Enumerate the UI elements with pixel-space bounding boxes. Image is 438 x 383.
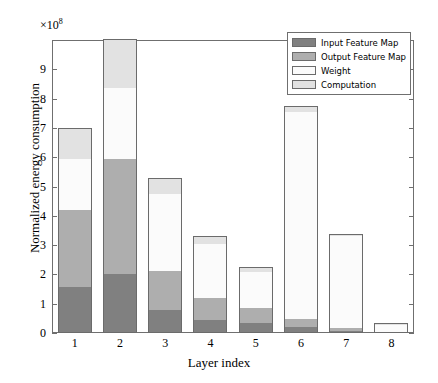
x-tick-label: 7 — [336, 336, 356, 351]
y-tick-label: 1 — [30, 296, 46, 311]
legend-label-computation: Computation — [321, 80, 376, 90]
legend-swatch-weight — [292, 66, 316, 75]
x-tick-mark — [120, 328, 121, 333]
x-tick-mark — [301, 328, 302, 333]
y-tick-mark-right — [409, 99, 414, 100]
y-tick-mark — [52, 187, 57, 188]
y-tick-mark — [52, 157, 57, 158]
y-axis-exponent-label: ×108 — [40, 17, 63, 33]
y-tick-mark-right — [409, 157, 414, 158]
x-tick-mark — [391, 328, 392, 333]
x-axis-title: Layer index — [0, 355, 438, 371]
legend-label-weight: Weight — [321, 66, 351, 76]
legend-item[interactable]: Weight — [292, 64, 406, 77]
legend: Input Feature Map Output Feature Map Wei… — [287, 32, 411, 95]
y-tick-mark-right — [409, 187, 414, 188]
x-tick-label: 3 — [155, 336, 175, 351]
legend-item[interactable]: Output Feature Map — [292, 50, 406, 63]
x-tick-label: 8 — [381, 336, 401, 351]
legend-swatch-computation — [292, 80, 316, 89]
y-tick-mark — [52, 216, 57, 217]
legend-swatch-input-feature-map — [292, 38, 316, 47]
y-tick-mark-right — [409, 245, 414, 246]
y-axis-title: Normalized energy consumption — [27, 53, 43, 283]
figure-canvas: ×108 012345678912345678 Layer index Norm… — [0, 0, 438, 383]
x-tick-mark — [256, 328, 257, 333]
legend-item[interactable]: Computation — [292, 78, 406, 91]
y-tick-label: 0 — [30, 326, 46, 341]
y-tick-mark — [52, 245, 57, 246]
legend-item[interactable]: Input Feature Map — [292, 36, 406, 49]
x-tick-label: 4 — [200, 336, 220, 351]
y-tick-mark — [52, 333, 57, 334]
x-tick-mark — [165, 328, 166, 333]
y-tick-mark-right — [409, 216, 414, 217]
y-tick-mark — [52, 128, 57, 129]
x-tick-label: 5 — [246, 336, 266, 351]
y-tick-mark-right — [409, 274, 414, 275]
x-tick-label: 1 — [65, 336, 85, 351]
y-tick-mark — [52, 69, 57, 70]
legend-label-output-feature-map: Output Feature Map — [321, 52, 406, 62]
legend-swatch-output-feature-map — [292, 52, 316, 61]
y-axis-exponent-prefix: ×10 — [40, 18, 59, 32]
x-tick-mark — [210, 328, 211, 333]
legend-label-input-feature-map: Input Feature Map — [321, 38, 398, 48]
x-tick-mark — [346, 328, 347, 333]
y-tick-mark — [52, 99, 57, 100]
x-tick-label: 2 — [110, 336, 130, 351]
y-tick-mark — [52, 304, 57, 305]
y-tick-mark — [52, 274, 57, 275]
y-tick-mark-right — [409, 333, 414, 334]
y-tick-mark-right — [409, 128, 414, 129]
x-tick-label: 6 — [291, 336, 311, 351]
y-axis-exponent-power: 8 — [59, 17, 63, 26]
x-tick-mark — [75, 328, 76, 333]
y-tick-mark-right — [409, 304, 414, 305]
